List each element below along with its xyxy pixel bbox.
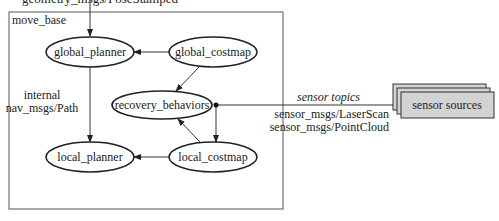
edge-local-costmap-to-recovery <box>178 119 200 142</box>
sensor-sources-box: sensor sources <box>393 84 494 118</box>
svg-text:local_planner: local_planner <box>57 150 122 164</box>
junction-dot <box>214 103 219 108</box>
edge-global-costmap-to-recovery <box>176 66 200 91</box>
path-label-line1: internal <box>24 88 61 102</box>
svg-text:global_planner: global_planner <box>54 45 126 59</box>
node-local-planner: local_planner <box>46 142 134 172</box>
sensor-topic-pointcloud: sensor_msgs/PointCloud <box>270 120 389 134</box>
sensor-topic-laserscan: sensor_msgs/LaserScan <box>274 107 389 121</box>
node-local-costmap: local_costmap <box>169 142 257 172</box>
svg-text:local_costmap: local_costmap <box>178 150 247 164</box>
svg-text:recovery_behaviors: recovery_behaviors <box>115 98 210 112</box>
top-input-label: geometry_msgs/PoseStamped <box>22 0 178 6</box>
svg-text:global_costmap: global_costmap <box>175 45 251 59</box>
move-base-diagram: geometry_msgs/PoseStamped move_base glob… <box>0 0 499 221</box>
sensor-topics-title: sensor topics <box>297 90 360 104</box>
sensor-sources-label: sensor sources <box>412 98 482 112</box>
move-base-label: move_base <box>12 13 66 27</box>
node-global-planner: global_planner <box>46 37 134 67</box>
node-recovery-behaviors: recovery_behaviors <box>112 91 212 119</box>
path-label-line2: nav_msgs/Path <box>6 101 79 115</box>
node-global-costmap: global_costmap <box>169 37 257 67</box>
